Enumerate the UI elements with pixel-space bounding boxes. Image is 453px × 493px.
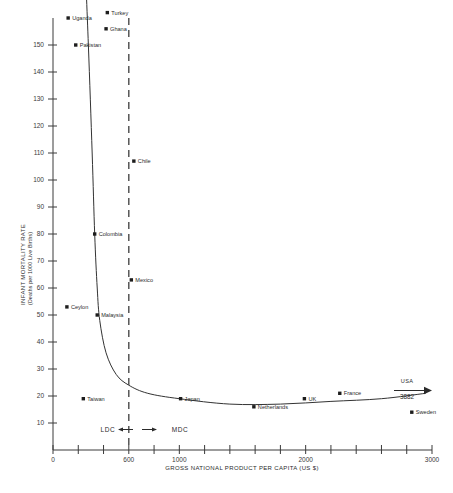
y-tick-label: 10 — [37, 419, 45, 426]
data-point-label: Mexico — [135, 277, 153, 283]
data-point-label: UK — [308, 396, 316, 402]
data-point-label: Ghana — [110, 26, 128, 32]
y-tick-label: 40 — [37, 338, 45, 345]
trend-curve-path — [85, 0, 426, 405]
data-point-marker — [66, 16, 69, 19]
data-point-label: Sweden — [416, 409, 436, 415]
y-tick-label: 100 — [33, 176, 44, 183]
infant-mortality-vs-gnp-chart: 102030405060708090100110120130140150 060… — [0, 0, 453, 493]
ldc-mdc-annotation: LDC MDC — [101, 426, 189, 433]
data-point-marker — [132, 159, 135, 162]
data-point-marker — [106, 11, 109, 14]
data-point-marker — [410, 411, 413, 414]
data-point-marker — [252, 405, 255, 408]
data-point-marker — [74, 43, 77, 46]
y-axis-title: INFANT MORTALITY RATE — [20, 224, 26, 305]
data-point-label: Taiwan — [87, 396, 104, 402]
y-tick-label: 130 — [33, 95, 44, 102]
data-point-marker — [65, 305, 68, 308]
y-tick-label: 150 — [33, 41, 44, 48]
x-tick-label: 2000 — [298, 456, 313, 463]
ldc-label: LDC — [101, 426, 116, 433]
usa-value-label: 3882 — [400, 393, 415, 400]
mdc-arrow-head-icon — [152, 427, 157, 431]
data-point-label: Japan — [185, 396, 200, 402]
y-tick-label: 60 — [37, 284, 45, 291]
data-point-label: Colombia — [99, 231, 124, 237]
y-tick-label: 50 — [37, 311, 45, 318]
data-point-marker — [179, 397, 182, 400]
data-point-label: Pakistan — [80, 42, 101, 48]
usa-offscale-annotation: USA 3882 — [394, 378, 432, 400]
y-tick-label: 70 — [37, 257, 45, 264]
data-point-marker — [96, 313, 99, 316]
x-tick-label: 1000 — [172, 456, 187, 463]
data-point-marker — [130, 278, 133, 281]
x-axis-ticks: 0600100020003000 — [51, 445, 439, 463]
y-tick-label: 120 — [33, 122, 44, 129]
data-points: UgandaTurkeyGhanaPakistanChileColombiaMe… — [65, 10, 436, 416]
data-point-label: Netherlands — [258, 404, 288, 410]
data-point-marker — [338, 392, 341, 395]
y-tick-label: 30 — [37, 365, 45, 372]
data-point-label: Ceylon — [71, 304, 88, 310]
chart-svg: 102030405060708090100110120130140150 060… — [0, 0, 453, 493]
y-tick-label: 140 — [33, 68, 44, 75]
data-point-marker — [93, 232, 96, 235]
ldc-arrow-head-icon — [118, 427, 123, 431]
data-point-label: Malaysia — [101, 312, 124, 318]
x-tick-label: 3000 — [425, 456, 440, 463]
data-point-marker — [303, 397, 306, 400]
y-tick-label: 80 — [37, 230, 45, 237]
data-point-marker — [104, 27, 107, 30]
mdc-label: MDC — [172, 426, 189, 433]
y-tick-label: 90 — [37, 203, 45, 210]
data-point-label: Uganda — [72, 15, 92, 21]
data-point-marker — [82, 397, 85, 400]
data-point-label: Chile — [138, 158, 151, 164]
y-axis-ticks: 102030405060708090100110120130140150 — [33, 41, 57, 426]
usa-arrow-head-icon — [424, 387, 432, 394]
x-tick-label: 600 — [123, 456, 134, 463]
trend-curve — [85, 0, 426, 405]
y-tick-label: 110 — [34, 149, 45, 156]
x-axis-title: GROSS NATIONAL PRODUCT PER CAPITA (US $) — [165, 465, 318, 471]
data-point-label: Turkey — [111, 10, 128, 16]
y-axis-subtitle: (Deaths per 1000 Live Births) — [27, 232, 33, 305]
x-tick-label: 0 — [51, 456, 55, 463]
usa-label: USA — [401, 378, 413, 384]
data-point-label: France — [344, 390, 361, 396]
y-tick-label: 20 — [37, 392, 45, 399]
